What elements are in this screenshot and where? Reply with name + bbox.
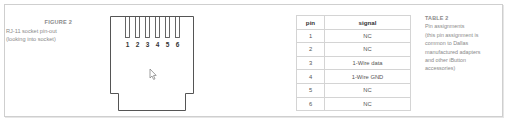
contact-slot-2 — [136, 17, 140, 38]
cell-signal: NC — [325, 97, 411, 111]
table-header-row: pin signal — [297, 16, 411, 30]
contact-slots — [126, 17, 180, 38]
table-row: 1 NC — [297, 29, 411, 43]
column-header-pin: pin — [297, 16, 325, 30]
contact-slot-4 — [156, 17, 160, 38]
cell-pin: 6 — [297, 97, 325, 111]
cell-signal: NC — [325, 43, 411, 57]
pin-number-6: 6 — [176, 41, 180, 48]
contact-slot-3 — [146, 17, 150, 38]
cell-pin: 4 — [297, 70, 325, 84]
cell-pin: 2 — [297, 43, 325, 57]
pin-number-4: 4 — [156, 41, 160, 48]
pin-assignment-table: pin signal 1 NC 2 NC 3 1-Wire data 4 1-W… — [296, 15, 411, 111]
cell-signal: NC — [325, 29, 411, 43]
table-caption-line: Pin assignments — [425, 22, 503, 30]
cell-signal: NC — [325, 83, 411, 97]
cell-pin: 3 — [297, 56, 325, 70]
pin-number-1: 1 — [126, 41, 130, 48]
cell-pin: 1 — [297, 29, 325, 43]
socket-outline — [111, 17, 194, 111]
table-row: 3 1-Wire data — [297, 56, 411, 70]
table-caption-line: accessories) — [425, 64, 503, 72]
table-caption-line: (this pin assignment is — [425, 31, 503, 39]
contact-slot-5 — [166, 17, 170, 38]
table-caption-line: manufactured adapters — [425, 48, 503, 56]
pin-number-2: 2 — [136, 41, 140, 48]
cell-signal: 1-Wire GND — [325, 70, 411, 84]
table-caption: TABLE 2 Pin assignments (this pin assign… — [425, 14, 503, 73]
contact-slot-6 — [176, 17, 180, 38]
mouse-cursor-icon — [150, 69, 156, 79]
table-caption-line: common to Dallas — [425, 39, 503, 47]
cell-signal: 1-Wire data — [325, 56, 411, 70]
column-header-signal: signal — [325, 16, 411, 30]
contact-slot-1 — [126, 17, 130, 38]
table-caption-title: TABLE 2 — [425, 14, 503, 22]
table-row: 4 1-Wire GND — [297, 70, 411, 84]
table-row: 2 NC — [297, 43, 411, 57]
table-row: 6 NC — [297, 97, 411, 111]
cell-pin: 5 — [297, 83, 325, 97]
pin-number-3: 3 — [146, 41, 150, 48]
pin-number-5: 5 — [166, 41, 170, 48]
rj11-socket-diagram: 1 2 3 4 5 6 — [0, 0, 260, 122]
table-caption-line: and other iButton — [425, 56, 503, 64]
table-row: 5 NC — [297, 83, 411, 97]
